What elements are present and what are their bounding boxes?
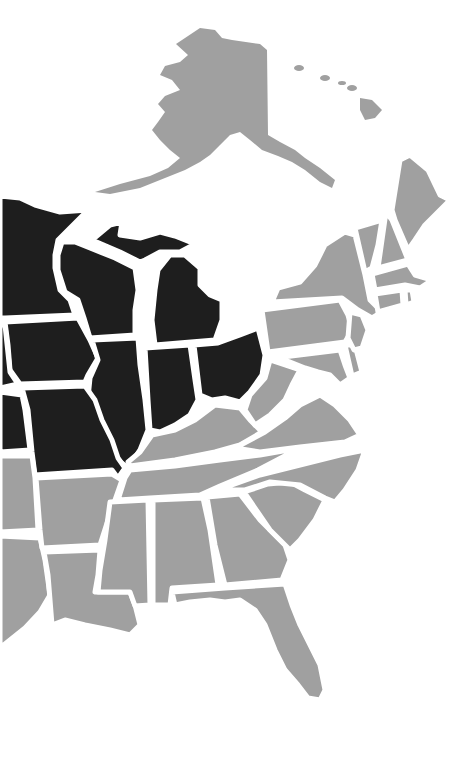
state-hawaii (294, 65, 382, 120)
state-indiana (145, 345, 198, 432)
state-oklahoma-partial (0, 456, 38, 532)
state-florida (172, 584, 325, 700)
state-rhode-island (405, 290, 414, 305)
state-iowa (5, 318, 98, 384)
state-alaska (95, 28, 335, 194)
state-connecticut (375, 290, 403, 312)
state-new-jersey (348, 312, 368, 350)
state-pennsylvania (262, 300, 352, 352)
state-maine (392, 155, 450, 250)
state-michigan-lower (152, 255, 222, 345)
us-map (0, 0, 461, 772)
state-mississippi (98, 500, 150, 606)
